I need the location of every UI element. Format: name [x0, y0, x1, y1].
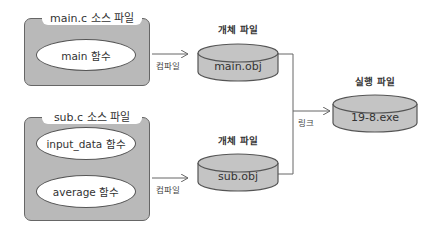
compile-label-sub: 컴파일 — [156, 183, 180, 195]
function-input-data: input_data 함수 — [36, 127, 136, 160]
source-title-sub-c: sub.c 소스 파일 — [42, 108, 142, 124]
object-heading-main: 개체 파일 — [198, 22, 278, 36]
function-average: average 함수 — [36, 175, 136, 208]
link-label: 링크 — [298, 116, 314, 128]
object-name-main: main.obj — [198, 60, 278, 73]
executable-name: 19-8.exe — [333, 111, 417, 124]
object-heading-sub: 개체 파일 — [198, 133, 278, 147]
executable-heading: 실행 파일 — [333, 74, 417, 88]
function-main: main 함수 — [36, 39, 136, 71]
compile-label-main: 컴파일 — [156, 59, 180, 71]
object-name-sub: sub.obj — [198, 170, 278, 183]
source-title-main-c: main.c 소스 파일 — [42, 9, 142, 25]
